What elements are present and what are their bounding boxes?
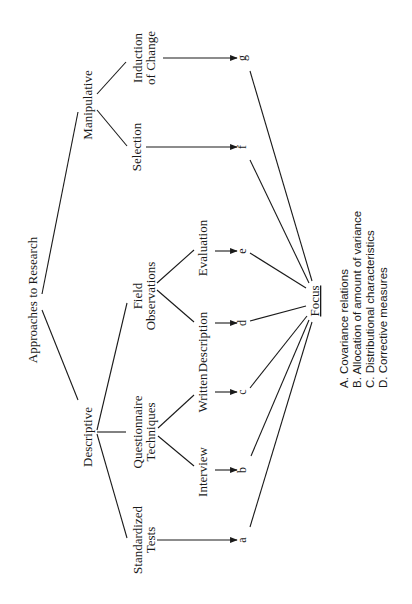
node-standardized-tests: Standardized Tests: [130, 506, 158, 574]
node-description: Description: [195, 311, 210, 372]
legend-item-b: B. Allocation of amount of variance: [351, 211, 363, 388]
svg-text:Selection: Selection: [129, 122, 144, 171]
svg-text:Interview: Interview: [195, 446, 210, 496]
focus-label: Focus: [307, 285, 322, 316]
focus-legend: A. Covariance relations B. Allocation of…: [338, 211, 389, 388]
node-interview: Interview: [195, 446, 210, 496]
svg-text:Written: Written: [195, 373, 210, 413]
svg-text:Evaluation: Evaluation: [195, 219, 210, 276]
outcome-c: c: [235, 389, 249, 394]
legend-item-c: C. Distributional characteristics: [364, 230, 376, 388]
root-label: Approaches to Research: [25, 236, 40, 363]
svg-text:Observations: Observations: [143, 262, 158, 331]
outcome-f: f: [235, 145, 249, 149]
node-selection: Selection: [129, 122, 144, 171]
node-field-observations: Field Observations: [130, 262, 158, 331]
node-written: Written: [195, 373, 210, 413]
outcome-g: g: [235, 55, 249, 61]
svg-text:Description: Description: [195, 311, 210, 372]
research-approaches-diagram: Approaches to Research Manipulative Desc…: [0, 0, 412, 604]
legend-item-a: A. Covariance relations: [338, 269, 350, 388]
node-questionnaire-techniques: Questionnaire Techniques: [130, 395, 158, 468]
outcome-arrows: [146, 58, 237, 540]
node-manipulative: Manipulative: [80, 70, 95, 140]
svg-text:Tests: Tests: [143, 527, 158, 554]
node-descriptive: Descriptive: [80, 407, 95, 467]
node-evaluation: Evaluation: [195, 219, 210, 276]
outcome-e: e: [235, 248, 249, 253]
node-induction-of-change: Induction of Change: [130, 31, 158, 85]
legend-item-d: D. Corrective measures: [377, 267, 389, 388]
svg-text:Techniques: Techniques: [143, 402, 158, 461]
outcome-a: a: [235, 537, 249, 543]
tree-edges: [42, 62, 194, 538]
outcome-d: d: [235, 320, 249, 326]
focus-edges: [250, 71, 312, 527]
outcome-b: b: [235, 467, 249, 473]
svg-text:of Change: of Change: [143, 31, 158, 85]
